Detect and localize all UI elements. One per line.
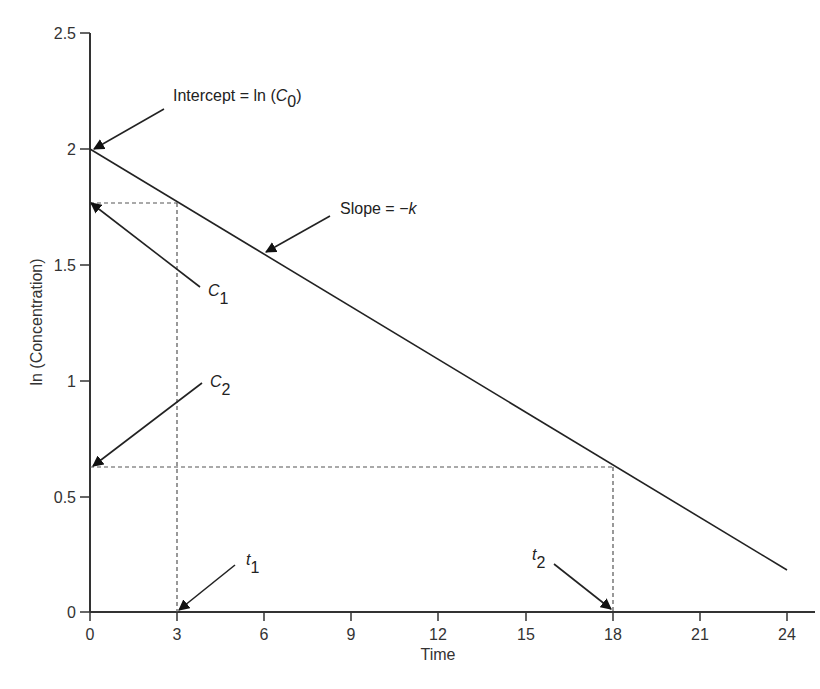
x-tick-label: 9: [347, 626, 356, 643]
x-tick-label: 15: [517, 626, 535, 643]
x-tick-label: 24: [778, 626, 796, 643]
y-ticks: [80, 33, 90, 612]
x-tick-label: 6: [260, 626, 269, 643]
intercept-arrow: [94, 109, 164, 149]
t1-annotation: t1: [246, 551, 259, 576]
y-axis-title: ln (Concentration): [28, 258, 45, 385]
x-tick-label: 21: [691, 626, 709, 643]
t1-arrow: [179, 565, 235, 610]
x-ticks: [90, 612, 787, 621]
slope-arrow: [266, 216, 330, 252]
c2-arrow: [93, 383, 202, 466]
y-tick-label: 2: [67, 141, 76, 158]
y-tick-label: 1.5: [54, 257, 76, 274]
chart-canvas: 0 0.5 1 1.5 2 2.5 0 3 6 9 12 15 18 21 24…: [0, 0, 820, 689]
x-tick-label: 12: [429, 626, 447, 643]
x-tick-label: 0: [86, 626, 95, 643]
annotation-arrows: [91, 109, 611, 610]
y-tick-label: 0: [67, 604, 76, 621]
x-tick-labels: 0 3 6 9 12 15 18 21 24: [86, 626, 796, 643]
y-tick-labels: 0 0.5 1 1.5 2 2.5: [54, 25, 76, 621]
regression-line: [90, 149, 787, 570]
x-tick-label: 18: [604, 626, 622, 643]
x-axis-title: Time: [421, 646, 456, 663]
c1-arrow: [91, 203, 200, 287]
slope-annotation: Slope = −k: [340, 200, 418, 217]
c2-annotation: C2: [210, 373, 231, 398]
y-tick-label: 1: [67, 373, 76, 390]
c1-annotation: C1: [208, 282, 229, 307]
y-tick-label: 2.5: [54, 25, 76, 42]
t2-annotation: t2: [532, 546, 545, 571]
t2-arrow: [554, 564, 611, 609]
y-tick-label: 0.5: [54, 489, 76, 506]
intercept-annotation: Intercept = ln (C0): [173, 87, 302, 110]
x-tick-label: 3: [173, 626, 182, 643]
